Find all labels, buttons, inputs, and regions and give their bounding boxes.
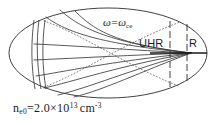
omega-subscript: ce: [126, 22, 133, 30]
caption-unit: cm: [80, 101, 95, 115]
caption-times: ×: [50, 101, 57, 115]
caption-unit-exponent: -3: [95, 101, 102, 110]
uhr-label: UHR: [139, 38, 163, 49]
ray-curve-8: [34, 44, 191, 53]
caption-base: 10: [57, 101, 70, 115]
density-caption: ne0=2.0×1013cm-3: [13, 101, 102, 116]
left-layer-curve-a: [32, 20, 35, 89]
left-layer-curve-b: [43, 20, 46, 89]
caption-mantissa: 2.0: [34, 101, 50, 115]
caption-exponent: 13: [70, 101, 78, 110]
left-resonance-layer-group: [32, 20, 46, 89]
figure-root: ω=ωce UHR R ne0=2.0×1013cm-3: [0, 0, 218, 125]
ray-curve-6: [58, 53, 191, 95]
ray-curve-3: [75, 11, 191, 53]
omega-resonance-label: ω=ωce: [103, 17, 133, 30]
r-label: R: [189, 38, 197, 49]
caption-symbol-subscript: e0: [19, 107, 27, 116]
ray-curve-7: [74, 53, 191, 97]
omega-symbol: ω: [103, 16, 111, 28]
omega-second-symbol: ω: [118, 16, 126, 28]
left-layer-curve-c: [37, 20, 41, 89]
